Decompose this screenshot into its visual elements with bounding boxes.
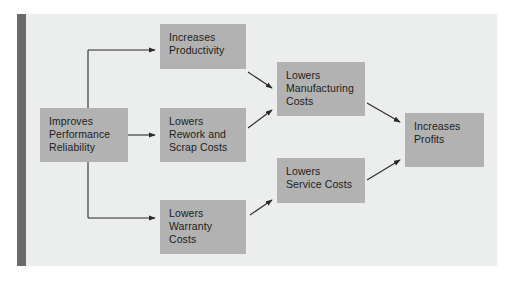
node-lowers-service-costs[interactable]: Lowers Service Costs [277,158,365,203]
edge-service-to-profits [367,160,400,180]
node-lowers-manufacturing-costs[interactable]: Lowers Manufacturing Costs [277,62,365,116]
node-increases-productivity[interactable]: Increases Productivity [160,24,246,69]
edge-manufacturing-to-profits [367,103,400,122]
diagram-root: Improves Performance Reliability Increas… [0,0,518,281]
edge-warranty-to-service [250,200,272,215]
node-lowers-warranty-costs[interactable]: Lowers Warranty Costs [160,200,246,254]
edge-rework-to-manufacturing [248,110,272,128]
node-lowers-rework-and-scrap-costs[interactable]: Lowers Rework and Scrap Costs [160,108,246,162]
node-increases-profits[interactable]: Increases Profits [405,113,484,167]
node-improves-performance-reliability[interactable]: Improves Performance Reliability [40,108,128,162]
edge-productivity-to-manufacturing [248,72,272,88]
